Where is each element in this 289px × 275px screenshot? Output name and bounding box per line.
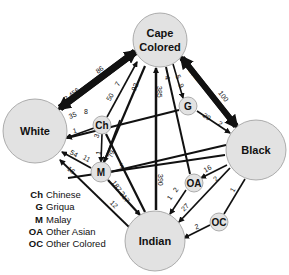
node-label: Cape — [147, 27, 174, 39]
node-label: Colored — [139, 41, 181, 53]
legend-abbr: Ch — [25, 189, 43, 201]
legend-abbr: G — [25, 201, 43, 213]
legend-row-malay: MMalay — [25, 214, 106, 226]
edge-label: 1 — [166, 194, 174, 201]
legend-row-chinese: ChChinese — [25, 189, 106, 201]
node-m: M — [91, 162, 111, 182]
legend-name: Griqua — [46, 201, 75, 212]
edge-cape-white — [60, 52, 135, 108]
edge-label: 5 — [119, 162, 125, 170]
edge-label: 1 — [72, 127, 78, 135]
node-label: Black — [241, 144, 271, 156]
legend-abbr: OC — [25, 238, 43, 250]
node-label: Ch — [95, 120, 108, 131]
legend-name: Other Colored — [46, 238, 106, 249]
legend-row-other-colored: OCOther Colored — [25, 238, 106, 250]
edge-cape-g — [173, 64, 183, 98]
edge-label: 4 — [164, 75, 172, 81]
edge-label: 35 — [68, 111, 78, 120]
legend-abbr: M — [25, 214, 43, 226]
node-oa: OA — [185, 174, 203, 192]
node-label: OC — [212, 217, 227, 228]
edge-label: 11 — [82, 154, 92, 164]
node-white: White — [3, 99, 67, 163]
edge-label: 390 — [157, 174, 164, 186]
edge-label: 8 — [84, 108, 88, 115]
legend-name: Malay — [46, 214, 71, 225]
edge-black-oc — [224, 179, 245, 214]
node-g: G — [179, 97, 197, 115]
legend: ChChinese GGriqua MMalay OAOther Asian O… — [25, 189, 106, 250]
edge-label: 2 — [217, 120, 224, 128]
node-label: White — [20, 125, 50, 137]
edge-ch-m — [101, 134, 102, 162]
edge-label: 385 — [156, 86, 163, 98]
node-indian: Indian — [125, 211, 185, 271]
edge-label: 7 — [114, 80, 122, 87]
node-ch: Ch — [93, 116, 111, 134]
edge-label: 2 — [172, 186, 180, 193]
node-oc: OC — [210, 213, 228, 231]
node-label: Indian — [139, 235, 172, 247]
legend-row-griqua: GGriqua — [25, 201, 106, 213]
edge-label: 1 — [229, 186, 237, 193]
edge-label: 2 — [194, 223, 200, 231]
node-cape-colored: Cape Colored — [133, 13, 187, 67]
legend-row-other-asian: OAOther Asian — [25, 226, 106, 238]
node-label: M — [97, 167, 105, 178]
legend-name: Chinese — [46, 189, 81, 200]
node-label: OA — [187, 178, 202, 189]
node-label: G — [184, 101, 192, 112]
legend-name: Other Asian — [46, 226, 96, 237]
node-black: Black — [226, 120, 286, 180]
edge-label: 50 — [105, 92, 115, 102]
edge-label: 1,827 — [188, 67, 204, 85]
legend-abbr: OA — [25, 226, 43, 238]
